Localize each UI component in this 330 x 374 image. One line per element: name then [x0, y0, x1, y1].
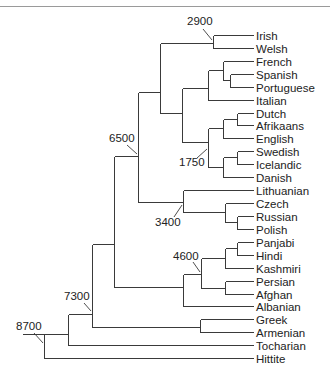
date-pointer-6500 [127, 145, 137, 154]
date-pointer-7300 [84, 303, 91, 311]
leaf-label-icelandic: Icelandic [256, 159, 302, 171]
leaf-label-czech: Czech [256, 198, 289, 210]
date-pointer-4600 [193, 262, 200, 272]
leaf-label-hindi: Hindi [256, 250, 282, 262]
leaf-label-kashmiri: Kashmiri [256, 263, 301, 275]
leaf-label-irish: Irish [256, 30, 278, 42]
leaf-label-albanian: Albanian [256, 301, 301, 313]
leaf-label-armenian: Armenian [256, 327, 305, 339]
leaf-label-greek: Greek [256, 314, 288, 326]
leaf-label-afrikaans: Afrikaans [256, 120, 304, 132]
leaf-label-dutch: Dutch [256, 108, 286, 120]
leaf-label-portuguese: Portuguese [256, 82, 315, 94]
date-label-8700: 8700 [16, 320, 42, 332]
date-label-3400: 3400 [155, 216, 181, 228]
leaf-label-swedish: Swedish [256, 146, 299, 158]
leaf-label-afghan: Afghan [256, 289, 292, 301]
leaf-label-english: English [256, 133, 294, 145]
language-tree-diagram: IrishWelshFrenchSpanishPortugueseItalian… [0, 0, 330, 374]
leaf-branches [45, 36, 254, 359]
leaf-label-russian: Russian [256, 211, 298, 223]
leaf-label-welsh: Welsh [256, 43, 288, 55]
leaf-label-lithuanian: Lithuanian [256, 185, 309, 197]
leaf-labels: IrishWelshFrenchSpanishPortugueseItalian… [256, 30, 315, 365]
date-label-6500: 6500 [109, 132, 135, 144]
date-label-7300: 7300 [64, 290, 90, 302]
leaf-label-italian: Italian [256, 95, 287, 107]
date-label-4600: 4600 [173, 250, 199, 262]
leaf-label-spanish: Spanish [256, 69, 298, 81]
leaf-label-panjabi: Panjabi [256, 237, 294, 249]
date-pointer-2900 [203, 29, 212, 40]
date-label-2900: 2900 [187, 15, 213, 27]
leaf-label-tocharian: Tocharian [256, 340, 306, 352]
leaf-label-polish: Polish [256, 224, 287, 236]
leaf-label-french: French [256, 56, 292, 68]
date-label-1750: 1750 [179, 156, 205, 168]
leaf-label-danish: Danish [256, 172, 292, 184]
leaf-label-hittite: Hittite [256, 353, 285, 365]
leaf-label-persian: Persian [256, 276, 295, 288]
tree-edges [23, 36, 238, 359]
